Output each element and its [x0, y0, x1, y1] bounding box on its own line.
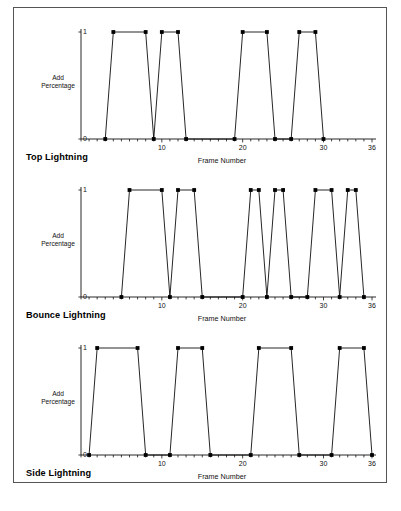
x-axis-label: Frame Number: [162, 472, 282, 481]
x-tick-10: 10: [151, 144, 173, 151]
series-title-top-lightning: Top Lightning: [26, 152, 88, 162]
chart-panel-side-lightning: Add Percentage 1 0 Side Lightning Frame …: [14, 327, 388, 485]
series-title-side-lightning: Side Lightning: [26, 468, 91, 478]
x-tick-10: 10: [151, 302, 173, 309]
x-axis-label: Frame Number: [162, 156, 282, 165]
chart-panel-top-lightning: Add Percentage 1 0 Top Lightning Frame N…: [14, 11, 388, 169]
x-axis-label: Frame Number: [162, 314, 282, 323]
x-tick-36: 36: [361, 460, 383, 467]
figure-frame: Add Percentage 1 0 Top Lightning Frame N…: [13, 7, 387, 483]
x-tick-20: 20: [232, 460, 254, 467]
x-tick-30: 30: [313, 302, 335, 309]
x-tick-10: 10: [151, 460, 173, 467]
x-tick-30: 30: [313, 460, 335, 467]
x-tick-20: 20: [232, 144, 254, 151]
x-tick-20: 20: [232, 302, 254, 309]
x-tick-30: 30: [313, 144, 335, 151]
chart-panel-bounce-lightning: Add Percentage 1 0 Bounce Lightning Fram…: [14, 169, 388, 327]
x-tick-36: 36: [361, 302, 383, 309]
x-tick-36: 36: [361, 144, 383, 151]
series-title-bounce-lightning: Bounce Lightning: [26, 310, 106, 320]
figure-page: Add Percentage 1 0 Top Lightning Frame N…: [0, 0, 401, 511]
